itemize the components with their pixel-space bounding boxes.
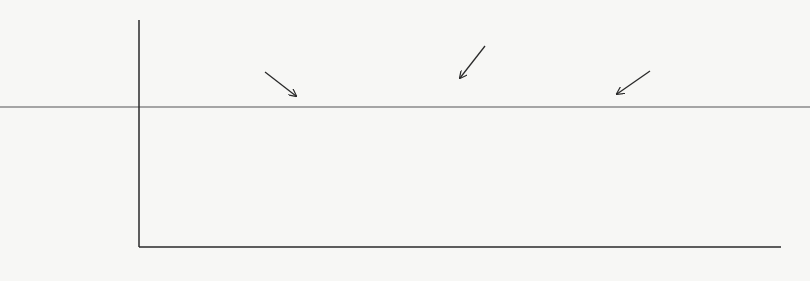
group3-arrow-icon bbox=[460, 46, 485, 78]
distribution-diagram bbox=[0, 0, 810, 281]
group2-arrow-icon bbox=[617, 71, 650, 94]
group1-arrow-icon bbox=[265, 72, 296, 96]
